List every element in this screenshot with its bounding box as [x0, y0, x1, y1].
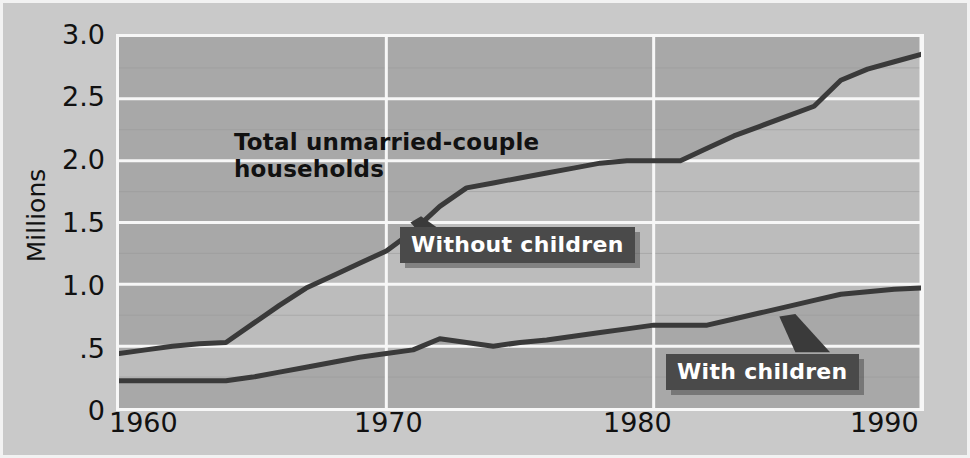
x-tick-label-1980: 1980: [603, 409, 672, 436]
y-tick-label-0.5: .5: [19, 335, 105, 362]
y-tick-label-2.5: 2.5: [19, 83, 105, 110]
y-tick-label-1.0: 1.0: [19, 272, 105, 299]
callout-with-children: With children: [666, 354, 859, 390]
annotation-total-unmarried-couple-households: Total unmarried-couple households: [234, 129, 539, 183]
annotation-total-line2: households: [234, 156, 539, 183]
chart-figure: Millions 3.0 2.5 2.0 1.5 1.0 .5 0 1960 1…: [0, 0, 970, 458]
x-tick-label-1970: 1970: [354, 409, 423, 436]
annotation-total-line1: Total unmarried-couple: [234, 129, 539, 156]
x-tick-label-1990: 1990: [850, 409, 919, 436]
callout-without-children: Without children: [400, 227, 635, 263]
y-tick-label-0: 0: [19, 397, 105, 424]
y-tick-label-1.5: 1.5: [19, 209, 105, 236]
x-tick-label-1960: 1960: [109, 409, 178, 436]
y-tick-label-3.0: 3.0: [19, 21, 105, 48]
chart-canvas: [119, 37, 921, 408]
y-tick-label-2.0: 2.0: [19, 146, 105, 173]
